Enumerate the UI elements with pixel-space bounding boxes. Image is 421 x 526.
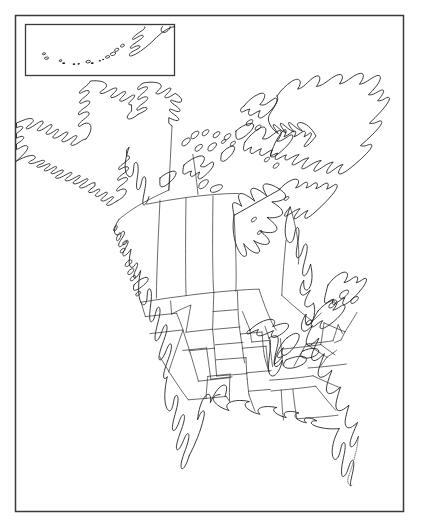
map-figure: [0, 0, 421, 526]
map-background: [0, 0, 421, 526]
north-america-outline-map: [0, 0, 421, 526]
